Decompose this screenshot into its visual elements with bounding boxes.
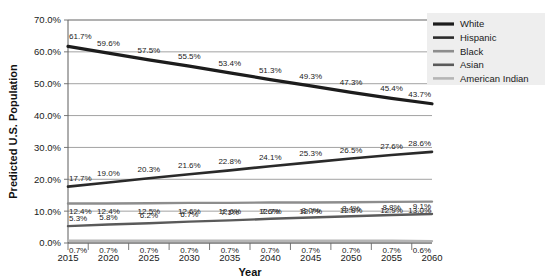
y-tick-label: 50.0% <box>34 78 61 89</box>
data-label: 21.6% <box>178 161 201 170</box>
data-label: 26.5% <box>340 146 363 155</box>
y-tick-label: 40.0% <box>34 110 61 121</box>
data-label: 0.6% <box>413 246 431 255</box>
legend-label-black: Black <box>460 46 483 57</box>
chart-canvas: 0.0%10.0%20.0%30.0%40.0%50.0%60.0%70.0%P… <box>0 0 545 280</box>
series-line-hispanic <box>68 152 432 187</box>
data-label: 20.3% <box>138 165 161 174</box>
legend-label-american-indian: American Indian <box>460 73 529 84</box>
data-label: 45.4% <box>380 84 403 93</box>
legend-label-hispanic: Hispanic <box>460 32 497 43</box>
data-label: 61.7% <box>69 32 92 41</box>
data-label: 28.6% <box>408 139 431 148</box>
data-labels: 61.7%59.6%57.5%55.5%53.4%51.3%49.3%47.3%… <box>69 32 431 255</box>
data-label: 5.3% <box>69 214 87 223</box>
y-axis-ticks: 0.0%10.0%20.0%30.0%40.0%50.0%60.0%70.0% <box>34 14 68 248</box>
data-label: 0.7% <box>261 246 279 255</box>
y-tick-label: 20.0% <box>34 174 61 185</box>
data-label: 0.7% <box>180 246 198 255</box>
data-label: 7.6% <box>261 207 279 216</box>
data-label: 19.0% <box>97 169 120 178</box>
data-label: 0.7% <box>382 246 400 255</box>
data-label: 6.7% <box>180 210 198 219</box>
data-label: 6.2% <box>140 211 158 220</box>
data-label: 5.8% <box>99 213 117 222</box>
data-label: 55.5% <box>178 52 201 61</box>
series-line-black <box>68 202 432 204</box>
data-label: 43.7% <box>408 90 431 99</box>
population-projection-chart: 0.0%10.0%20.0%30.0%40.0%50.0%60.0%70.0%P… <box>0 0 545 280</box>
legend-label-white: White <box>460 18 484 29</box>
data-label: 0.7% <box>69 246 87 255</box>
gridlines <box>68 20 432 243</box>
data-label: 53.4% <box>218 59 241 68</box>
data-label: 8.8% <box>382 203 400 212</box>
data-label: 51.3% <box>259 66 282 75</box>
data-label: 17.7% <box>69 174 92 183</box>
series-group <box>68 46 432 241</box>
data-label: 9.1% <box>413 202 431 211</box>
data-label: 0.7% <box>342 246 360 255</box>
legend: WhiteHispanicBlackAsianAmerican Indian <box>427 13 545 85</box>
axes <box>68 20 432 243</box>
data-label: 59.6% <box>97 39 120 48</box>
data-label: 0.7% <box>221 246 239 255</box>
data-label: 27.6% <box>380 142 403 151</box>
legend-label-asian: Asian <box>460 59 484 70</box>
data-label: 7.1% <box>221 208 239 217</box>
data-label: 0.7% <box>302 246 320 255</box>
series-line-asian <box>68 214 432 226</box>
y-tick-label: 60.0% <box>34 46 61 57</box>
data-label: 0.7% <box>140 246 158 255</box>
data-label: 0.7% <box>99 246 117 255</box>
y-tick-label: 70.0% <box>34 14 61 25</box>
data-label: 49.3% <box>299 72 322 81</box>
data-label: 8.0% <box>302 206 320 215</box>
data-label: 47.3% <box>340 78 363 87</box>
series-line-white <box>68 46 432 103</box>
data-label: 24.1% <box>259 153 282 162</box>
y-tick-label: 0.0% <box>39 237 61 248</box>
y-tick-label: 10.0% <box>34 206 61 217</box>
data-label: 57.5% <box>138 46 161 55</box>
data-label: 8.4% <box>342 204 360 213</box>
y-tick-label: 30.0% <box>34 142 61 153</box>
x-axis-title: Year <box>238 266 262 278</box>
data-label: 22.8% <box>218 157 241 166</box>
data-label: 25.3% <box>299 149 322 158</box>
y-axis-title: Predicted U.S. Population <box>7 64 19 199</box>
